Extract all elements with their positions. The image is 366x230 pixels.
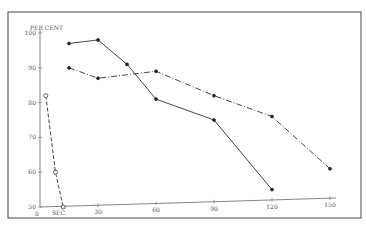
y-tick-label: 70 <box>28 133 36 140</box>
x-axis-label: SEC. <box>52 209 67 216</box>
line-chart: 10090807060500306090120150 PER CENT SEC. <box>0 0 366 230</box>
x-tick-label: 60 <box>152 206 160 213</box>
data-point <box>271 115 274 118</box>
data-point <box>155 70 158 73</box>
data-point <box>68 42 71 45</box>
y-tick-label: 50 <box>28 203 36 210</box>
y-axis-label: PER CENT <box>30 24 63 31</box>
data-point <box>126 63 129 66</box>
data-point <box>155 98 158 101</box>
data-point <box>213 94 216 97</box>
data-point <box>97 38 100 41</box>
x-tick-label: 30 <box>94 208 102 215</box>
y-tick-label: 90 <box>28 64 36 71</box>
data-point <box>213 119 216 122</box>
data-point <box>44 94 48 98</box>
x-tick-label: 90 <box>210 205 218 212</box>
data-point <box>329 167 332 170</box>
data-point <box>271 188 274 191</box>
x-tick-label: 0 <box>35 210 39 217</box>
data-point <box>68 66 71 69</box>
data-point <box>97 77 100 80</box>
y-tick-label: 60 <box>28 168 36 175</box>
data-point <box>53 170 57 174</box>
x-tick-label: 120 <box>266 203 278 210</box>
y-tick-label: 80 <box>28 99 36 106</box>
chart-frame <box>8 12 361 218</box>
x-tick-label: 150 <box>324 201 336 208</box>
